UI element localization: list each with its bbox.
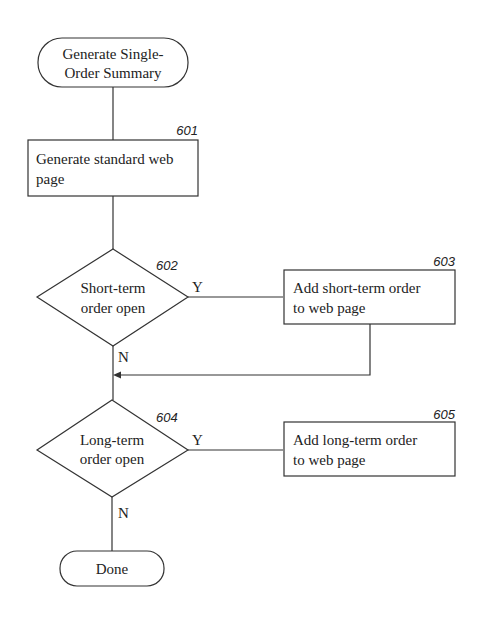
svg-text:601: 601 xyxy=(176,123,198,138)
process-603: 603 Add short-term order to web page xyxy=(284,254,456,324)
svg-text:Generate standard web: Generate standard web xyxy=(36,151,173,167)
done-terminator: Done xyxy=(60,551,164,586)
svg-text:N: N xyxy=(118,349,129,365)
svg-text:Add short-term order: Add short-term order xyxy=(293,280,420,296)
svg-text:Y: Y xyxy=(192,432,203,448)
svg-text:Long-term: Long-term xyxy=(80,432,144,448)
svg-text:order open: order open xyxy=(80,451,145,467)
arrowhead-icon xyxy=(113,372,121,379)
svg-text:to web page: to web page xyxy=(293,300,366,316)
flowchart: Generate Single- Order Summary 601 Gener… xyxy=(0,0,486,621)
svg-text:Done: Done xyxy=(96,561,129,577)
svg-text:page: page xyxy=(36,171,65,187)
svg-text:Order Summary: Order Summary xyxy=(64,65,162,81)
process-605: 605 Add long-term order to web page xyxy=(284,407,456,476)
svg-text:N: N xyxy=(118,505,129,521)
svg-text:Generate Single-: Generate Single- xyxy=(62,46,163,62)
start-terminator: Generate Single- Order Summary xyxy=(38,38,188,87)
connector-603-return xyxy=(116,324,370,375)
svg-text:order open: order open xyxy=(81,300,146,316)
svg-text:605: 605 xyxy=(433,407,455,422)
svg-text:604: 604 xyxy=(156,410,178,425)
decision-602: 602 Short-term order open Y N xyxy=(37,249,203,365)
svg-text:to web page: to web page xyxy=(293,452,366,468)
svg-text:Y: Y xyxy=(192,279,203,295)
decision-604: 604 Long-term order open Y N xyxy=(37,400,203,521)
svg-text:603: 603 xyxy=(433,254,455,269)
svg-text:602: 602 xyxy=(156,258,178,273)
svg-text:Add long-term order: Add long-term order xyxy=(293,432,417,448)
svg-text:Short-term: Short-term xyxy=(81,280,146,296)
